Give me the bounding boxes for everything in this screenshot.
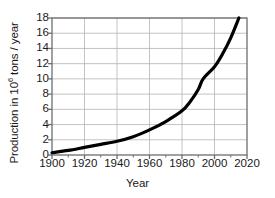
grid-lines xyxy=(52,18,247,155)
x-axis-tick-label: 2000 xyxy=(202,157,228,169)
x-axis-tick-label: 1980 xyxy=(169,157,195,169)
x-axis-tick-label: 1960 xyxy=(137,157,163,169)
x-axis-tick-label: 1940 xyxy=(104,157,130,169)
x-axis-tick-label: 2020 xyxy=(234,157,260,169)
chart-figure: Production in 106 tons / year 0246810121… xyxy=(0,0,275,198)
axis-ticks xyxy=(48,18,247,159)
data-series-line xyxy=(52,18,239,153)
x-axis-tick-label: 1920 xyxy=(72,157,98,169)
x-axis-tick-label: 1900 xyxy=(39,157,65,169)
